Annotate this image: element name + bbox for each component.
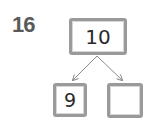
arrow-to-left-part [73,56,97,80]
whole-value: 10 [85,25,110,49]
part-value-left: 9 [64,89,76,111]
whole-box: 10 [69,18,127,55]
part-box-right-answer[interactable] [107,83,143,118]
arrow-to-right-part [97,56,122,80]
part-box-left: 9 [53,83,87,117]
